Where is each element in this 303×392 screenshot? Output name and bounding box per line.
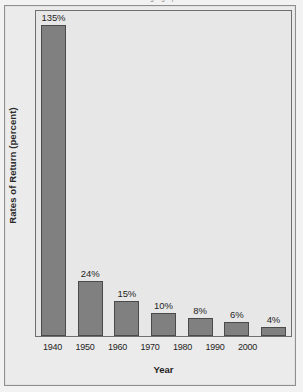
bar-slot: 10% <box>151 11 176 336</box>
x-axis-tick-label: 1940 <box>40 342 65 352</box>
x-axis-tick-label: 1950 <box>73 342 98 352</box>
bar <box>151 313 176 336</box>
bar <box>114 301 139 336</box>
bar <box>188 318 213 336</box>
bar-value-label: 24% <box>81 268 100 279</box>
bar <box>224 322 249 336</box>
plot-area: 135%24%15%10%8%6%4% <box>35 10 292 337</box>
x-axis-tick-label: 1960 <box>105 342 130 352</box>
bar-value-label: 135% <box>42 12 66 23</box>
x-axis-title: Year <box>35 364 292 375</box>
x-axis-tick-label: 1990 <box>203 342 228 352</box>
x-axis-tick-label: 2000 <box>235 342 260 352</box>
bar-slot: 8% <box>188 11 213 336</box>
x-axis-tick-label: 1980 <box>170 342 195 352</box>
figure-card: 135%24%15%10%8%6%4% Rates of Return (per… <box>4 5 296 386</box>
bar-slot: 135% <box>41 11 66 336</box>
y-axis-title: Rates of Return (percent) <box>7 1 18 331</box>
bar <box>41 25 66 336</box>
bar <box>261 327 286 336</box>
bar-slot: 4% <box>261 11 286 336</box>
x-axis-tick-labels: 1940195019601970198019902000 <box>40 342 260 352</box>
bar <box>78 281 103 336</box>
bar-slot: 6% <box>224 11 249 336</box>
bar-value-label: 4% <box>267 314 281 325</box>
bar-slot: 24% <box>78 11 103 336</box>
bar-series: 135%24%15%10%8%6%4% <box>41 11 286 336</box>
bar-value-label: 15% <box>117 288 136 299</box>
bar-value-label: 10% <box>154 300 173 311</box>
bar-value-label: 8% <box>193 305 207 316</box>
chart-page: g · g · p 135%24%15%10%8%6%4% Rates of R… <box>0 0 303 392</box>
bar-value-label: 6% <box>230 309 244 320</box>
x-axis-tick-label: 1970 <box>138 342 163 352</box>
cut-off-header-label: g · g · p <box>150 0 176 1</box>
bar-slot: 15% <box>114 11 139 336</box>
cut-off-header-text: g · g · p <box>0 0 303 4</box>
